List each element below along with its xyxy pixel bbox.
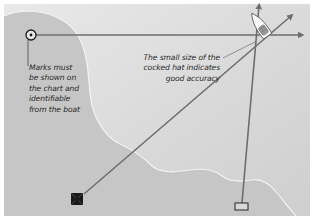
- marks-annotation-line: the chart and: [29, 84, 99, 94]
- marks-annotation-line: from the boat: [29, 105, 99, 115]
- diagram-canvas: Marks must be shown on the chart and ide…: [0, 0, 315, 222]
- marks-annotation: Marks must be shown on the chart and ide…: [29, 63, 99, 115]
- marks-annotation-line: Marks must: [29, 63, 99, 73]
- marks-annotation-line: identifiable: [29, 94, 99, 104]
- maltese-cross-mark-icon: [71, 193, 83, 205]
- cocked-hat-annotation-line: cocked hat indicates: [120, 63, 220, 73]
- cocked-hat-annotation: The small size of the cocked hat indicat…: [120, 53, 220, 84]
- cocked-hat-annotation-line: good accuracy: [120, 74, 220, 84]
- marks-annotation-line: be shown on: [29, 73, 99, 83]
- cocked-hat-annotation-line: The small size of the: [120, 53, 220, 63]
- circle-dot-mark-icon: [26, 30, 36, 40]
- rectangle-mark-icon: [235, 203, 248, 210]
